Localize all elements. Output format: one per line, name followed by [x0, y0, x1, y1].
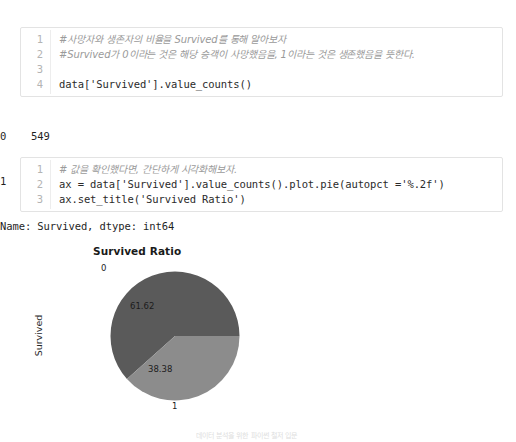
- code-text: ax = data['Survived'].value_counts().plo…: [50, 177, 502, 192]
- chart-title: Survived Ratio: [93, 245, 181, 257]
- line-number: 3: [21, 62, 50, 77]
- pie-category-label-1: 1: [172, 401, 177, 411]
- code-line: 4 data['Survived'].value_counts(): [21, 77, 502, 92]
- notebook-page: 1 #사망자와 생존자의 비율을 Survived를 통해 알아보자 2 #Su…: [0, 0, 516, 442]
- pie-percent-label-1: 38.38: [148, 364, 172, 374]
- output-line: 0 549: [0, 129, 516, 144]
- code-line: 3: [21, 62, 502, 77]
- line-number: 1: [21, 32, 50, 47]
- code-cell-2-body[interactable]: 1 # 값을 확인했다면, 간단하게 시각화해보자. 2 ax = data['…: [21, 158, 502, 211]
- page-caption: 데이터 분석을 위한 파이썬 철저 입문: [196, 430, 516, 440]
- code-line: 3 ax.set_title('Survived Ratio'): [21, 192, 502, 207]
- pie-percent-label-0: 61.62: [130, 301, 154, 311]
- code-text: # 값을 확인했다면, 간단하게 시각화해보자.: [50, 162, 502, 177]
- line-number: 2: [21, 47, 50, 62]
- code-text: #Survived가 0이라는 것은 해당 승객이 사망했음을, 1이라는 것은…: [50, 47, 502, 62]
- code-text: data['Survived'].value_counts(): [50, 77, 502, 92]
- chart-ylabel: Survived: [33, 296, 44, 376]
- code-line: 1 # 값을 확인했다면, 간단하게 시각화해보자.: [21, 162, 502, 177]
- code-line: 2 ax = data['Survived'].value_counts().p…: [21, 177, 502, 192]
- gutter-divider: [50, 30, 51, 94]
- code-text: ax.set_title('Survived Ratio'): [50, 192, 502, 207]
- pie-svg: [110, 271, 240, 401]
- line-number: 2: [21, 177, 50, 192]
- pie-category-label-0: 0: [101, 263, 106, 273]
- line-number: 3: [21, 192, 50, 207]
- code-line: 1 #사망자와 생존자의 비율을 Survived를 통해 알아보자: [21, 32, 502, 47]
- line-number: 1: [21, 162, 50, 177]
- code-line: 2 #Survived가 0이라는 것은 해당 승객이 사망했음을, 1이라는 …: [21, 47, 502, 62]
- code-text: #사망자와 생존자의 비율을 Survived를 통해 알아보자: [50, 32, 502, 47]
- matplotlib-figure: Survived Ratio Survived 61.62 38.38 0 1: [0, 235, 516, 420]
- code-cell-1-body[interactable]: 1 #사망자와 생존자의 비율을 Survived를 통해 알아보자 2 #Su…: [21, 28, 502, 96]
- code-cell-1[interactable]: 1 #사망자와 생존자의 비율을 Survived를 통해 알아보자 2 #Su…: [20, 27, 503, 97]
- pie-chart: [110, 271, 240, 401]
- gutter-divider: [50, 160, 51, 209]
- line-number: 4: [21, 77, 50, 92]
- code-cell-2[interactable]: 1 # 값을 확인했다면, 간단하게 시각화해보자. 2 ax = data['…: [20, 157, 503, 212]
